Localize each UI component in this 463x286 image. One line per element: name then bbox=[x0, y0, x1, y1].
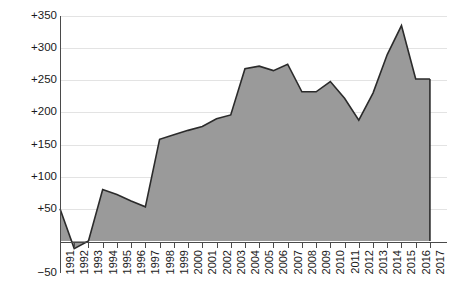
x-axis-tick bbox=[202, 243, 203, 248]
x-axis-tick bbox=[231, 243, 232, 248]
y-axis-tick-label: +250 bbox=[5, 74, 57, 85]
x-axis-tick bbox=[345, 243, 346, 248]
x-axis-tick bbox=[188, 243, 189, 248]
x-axis-tick-label: 2011 bbox=[350, 250, 361, 274]
x-axis-tick-label: 2010 bbox=[335, 250, 346, 274]
y-axis-tick-label: +200 bbox=[5, 106, 57, 117]
x-axis-tick bbox=[245, 243, 246, 248]
x-axis-tick bbox=[174, 243, 175, 248]
x-axis-tick-label: 2009 bbox=[321, 250, 332, 274]
x-axis-tick-label: 2002 bbox=[222, 250, 233, 274]
x-axis-tick-label: 2006 bbox=[278, 250, 289, 274]
x-axis-tick bbox=[259, 243, 260, 248]
y-axis-tick-label: +300 bbox=[5, 42, 57, 53]
x-axis-tick bbox=[60, 243, 61, 248]
y-axis-tick-label: +350 bbox=[5, 10, 57, 21]
x-axis-tick-label: 1994 bbox=[108, 250, 119, 274]
x-axis-tick-label: 1995 bbox=[122, 250, 133, 274]
x-axis-tick-label: 2014 bbox=[392, 250, 403, 274]
x-axis-tick-label: 2016 bbox=[421, 250, 432, 274]
x-axis-tick-label: 2005 bbox=[264, 250, 275, 274]
x-axis-tick-label: 2001 bbox=[207, 250, 218, 274]
x-axis-tick-label: 1997 bbox=[150, 250, 161, 274]
x-axis-tick bbox=[145, 243, 146, 248]
x-axis-tick bbox=[373, 243, 374, 248]
x-axis-tick bbox=[160, 243, 161, 248]
x-axis-tick-label: 2004 bbox=[250, 250, 261, 274]
x-axis-tick-label: 2000 bbox=[193, 250, 204, 274]
x-axis-tick bbox=[302, 243, 303, 248]
x-axis-tick-label: 2008 bbox=[307, 250, 318, 274]
x-axis-tick bbox=[131, 243, 132, 248]
x-axis-tick bbox=[74, 243, 75, 248]
x-axis-tick-label: 2017 bbox=[435, 250, 446, 274]
y-axis-tick-label: +150 bbox=[5, 139, 57, 150]
x-axis-tick-label: 2007 bbox=[293, 250, 304, 274]
y-axis-tick-label: −50 bbox=[5, 267, 57, 278]
area-fill bbox=[60, 26, 430, 249]
x-axis-tick bbox=[288, 243, 289, 248]
x-axis-tick bbox=[330, 243, 331, 248]
x-axis-tick bbox=[359, 243, 360, 248]
x-axis-tick bbox=[401, 243, 402, 248]
x-axis-tick bbox=[387, 243, 388, 248]
x-axis-tick bbox=[416, 243, 417, 248]
x-axis-tick bbox=[430, 243, 431, 248]
x-axis-tick bbox=[316, 243, 317, 248]
x-axis-tick-label: 1992 bbox=[79, 250, 90, 274]
area-series bbox=[60, 16, 447, 273]
x-axis-tick-label: 2012 bbox=[364, 250, 375, 274]
x-axis-line bbox=[60, 242, 447, 243]
x-axis-tick bbox=[217, 243, 218, 248]
y-axis: +350+300+250+200+150+100+50−50 bbox=[0, 0, 57, 286]
y-axis-line bbox=[60, 16, 61, 273]
x-axis-tick-label: 1991 bbox=[65, 250, 76, 274]
x-axis-tick bbox=[88, 243, 89, 248]
x-axis-tick bbox=[273, 243, 274, 248]
x-axis-tick-label: 2015 bbox=[406, 250, 417, 274]
area-chart: +350+300+250+200+150+100+50−50 199119921… bbox=[0, 0, 463, 286]
plot-area bbox=[60, 16, 447, 273]
y-axis-tick-label: +100 bbox=[5, 171, 57, 182]
x-axis-tick-label: 1999 bbox=[179, 250, 190, 274]
x-axis-tick-label: 2003 bbox=[236, 250, 247, 274]
x-axis-tick-label: 1998 bbox=[165, 250, 176, 274]
x-axis-tick-label: 2013 bbox=[378, 250, 389, 274]
x-axis-tick bbox=[103, 243, 104, 248]
x-axis-tick-label: 1993 bbox=[93, 250, 104, 274]
y-axis-tick-label: +50 bbox=[5, 203, 57, 214]
x-axis-tick bbox=[117, 243, 118, 248]
x-axis-tick-label: 1996 bbox=[136, 250, 147, 274]
